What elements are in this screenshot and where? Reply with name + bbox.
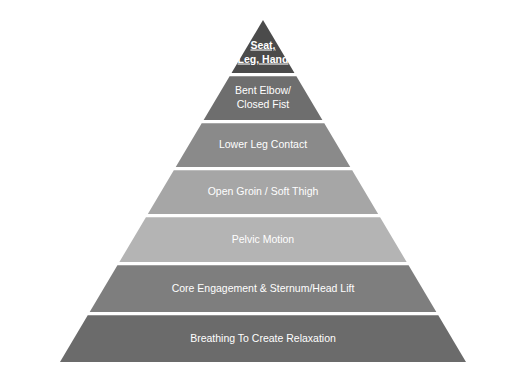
pyramid-tier-7-line-1: Breathing To Create Relaxation	[190, 331, 336, 343]
pyramid-tier-3-line-1: Lower Leg Contact	[219, 138, 307, 150]
pyramid-tier-4-line-1: Open Groin / Soft Thigh	[208, 185, 319, 197]
pyramid-tier-3-label: Lower Leg Contact	[219, 138, 307, 150]
pyramid-tier-1-line-1: Seat,	[250, 38, 275, 50]
pyramid-tier-5-label: Pelvic Motion	[232, 232, 295, 244]
pyramid-tier-4-label: Open Groin / Soft Thigh	[208, 185, 319, 197]
pyramid-tier-5-line-1: Pelvic Motion	[232, 232, 295, 244]
pyramid-tier-7-label: Breathing To Create Relaxation	[190, 331, 336, 343]
pyramid-tier-2-line-2: Closed Fist	[237, 98, 290, 110]
pyramid-tier-6-line-1: Core Engagement & Sternum/Head Lift	[172, 281, 355, 293]
pyramid-tier-2-line-1: Bent Elbow/	[235, 84, 291, 96]
pyramid-diagram: Seat,Leg, HandBent Elbow/Closed FistLowe…	[0, 0, 524, 388]
pyramid-tier-1-line-2: Leg, Hand	[238, 52, 289, 64]
pyramid-tier-6-label: Core Engagement & Sternum/Head Lift	[172, 281, 355, 293]
pyramid-graphic: Seat,Leg, HandBent Elbow/Closed FistLowe…	[0, 0, 524, 388]
